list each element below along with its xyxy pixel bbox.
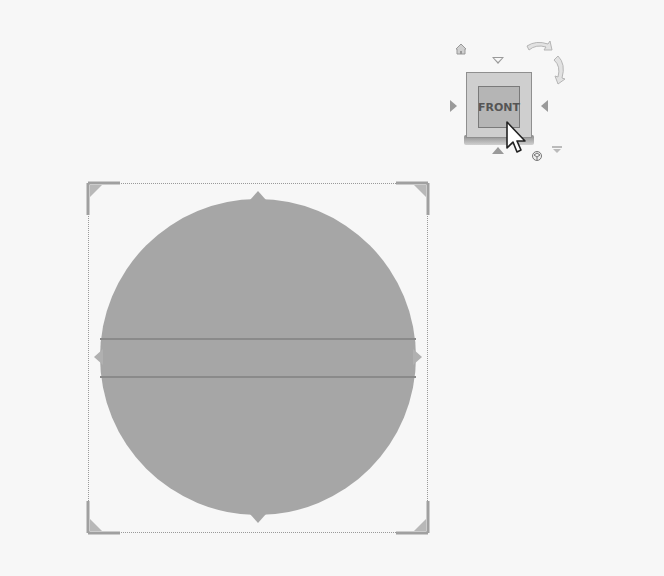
arrow-up-icon[interactable]: [492, 57, 504, 64]
viewcube-dropdown-icon[interactable]: [551, 145, 563, 155]
arrow-right-icon[interactable]: [541, 100, 548, 112]
rotate-cw-icon[interactable]: [552, 54, 570, 86]
home-icon[interactable]: [454, 42, 468, 56]
mouse-cursor-icon: [505, 120, 531, 156]
grip-handle-right[interactable]: [413, 349, 423, 365]
grip-handle-bottom[interactable]: [250, 514, 266, 524]
rotate-ccw-icon[interactable]: [524, 38, 554, 56]
band-line-top: [100, 338, 416, 340]
arrow-down-icon[interactable]: [492, 147, 504, 154]
corner-handle-bottom-left[interactable]: [86, 501, 120, 535]
band-line-bottom: [100, 376, 416, 378]
corner-handle-top-left[interactable]: [86, 181, 120, 215]
grip-handle-top[interactable]: [250, 190, 266, 200]
grip-handle-left[interactable]: [93, 349, 103, 365]
viewcube-menu-icon[interactable]: [531, 150, 543, 162]
cube-face-label: FRONT: [478, 101, 520, 114]
selected-circle-shape[interactable]: [100, 199, 416, 515]
arrow-left-icon[interactable]: [450, 100, 457, 112]
corner-handle-bottom-right[interactable]: [396, 501, 430, 535]
3d-viewport[interactable]: FRONT: [0, 0, 664, 576]
corner-handle-top-right[interactable]: [396, 181, 430, 215]
